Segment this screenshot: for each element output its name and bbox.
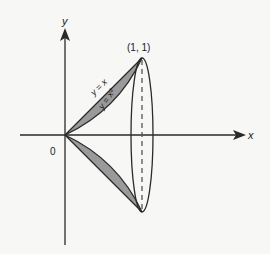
diagram-canvas: y x 0 (1, 1) y = x y = x² <box>0 0 270 254</box>
x-axis-label: x <box>247 129 254 141</box>
point-label: (1, 1) <box>127 42 150 53</box>
y-axis-label: y <box>61 15 69 27</box>
lower-shaded-region <box>65 135 142 212</box>
origin-label: 0 <box>50 146 56 157</box>
